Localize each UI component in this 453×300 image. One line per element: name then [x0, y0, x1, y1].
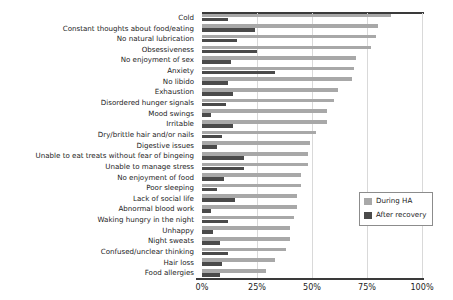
- category-label: No enjoyment of sex: [121, 56, 194, 64]
- bar-row: [202, 109, 422, 120]
- category-label: Dry/brittle hair and/or nails: [98, 131, 194, 139]
- category-label: No natural lubrication: [117, 35, 194, 43]
- bar-during-ha: [202, 141, 310, 145]
- legend-label-during-ha: During HA: [376, 197, 412, 205]
- bar-during-ha: [202, 14, 391, 18]
- bar-after-recovery: [202, 156, 244, 160]
- plot-area: [202, 13, 422, 279]
- bar-after-recovery: [202, 113, 211, 117]
- category-label: Unhappy: [162, 227, 194, 235]
- xtick-label: 50%: [303, 282, 321, 292]
- bar-after-recovery: [202, 71, 275, 75]
- legend-swatch-during-ha: [364, 198, 372, 205]
- category-label: Hair loss: [163, 259, 194, 267]
- bar-row: [202, 66, 422, 77]
- xtick-label: 25%: [248, 282, 266, 292]
- category-label: Cold: [178, 14, 194, 22]
- chart-legend: During HA After recovery: [359, 192, 433, 226]
- category-label: Food allergies: [145, 269, 194, 277]
- bar-after-recovery: [202, 220, 228, 224]
- category-label: Waking hungry in the night: [98, 216, 194, 224]
- bar-after-recovery: [202, 28, 255, 32]
- bar-after-recovery: [202, 241, 220, 245]
- xtick-label: 0%: [196, 282, 209, 292]
- bar-row: [202, 151, 422, 162]
- bar-during-ha: [202, 226, 290, 230]
- bar-row: [202, 162, 422, 173]
- bar-row: [202, 45, 422, 56]
- category-label: Digestive issues: [137, 142, 194, 150]
- bar-row: [202, 34, 422, 45]
- bar-row: [202, 236, 422, 247]
- category-label: Confused/unclear thinking: [101, 248, 194, 256]
- category-label: Disordered hunger signals: [101, 99, 194, 107]
- xtick-label: 100%: [410, 282, 433, 292]
- bar-after-recovery: [202, 81, 228, 85]
- bar-row: [202, 77, 422, 88]
- bar-row: [202, 226, 422, 237]
- bar-row: [202, 13, 422, 24]
- category-label: Constant thoughts about food/eating: [63, 25, 194, 33]
- bar-after-recovery: [202, 198, 235, 202]
- category-label: No enjoyment of food: [117, 174, 194, 182]
- bar-chart: ColdConstant thoughts about food/eatingN…: [0, 0, 453, 300]
- bar-during-ha: [202, 109, 327, 113]
- bar-row: [202, 258, 422, 269]
- legend-label-after-recovery: After recovery: [376, 211, 426, 219]
- legend-swatch-after-recovery: [364, 212, 372, 219]
- value-axis-line: [196, 278, 424, 280]
- xtick-label: 75%: [358, 282, 376, 292]
- category-label: Poor sleeping: [146, 184, 194, 192]
- bar-after-recovery: [202, 135, 222, 139]
- bar-after-recovery: [202, 39, 237, 43]
- bar-after-recovery: [202, 230, 213, 234]
- category-label: Night sweats: [148, 237, 194, 245]
- bar-row: [202, 119, 422, 130]
- bar-after-recovery: [202, 188, 217, 192]
- bar-during-ha: [202, 205, 297, 209]
- category-label: Exhaustion: [155, 88, 194, 96]
- bar-row: [202, 56, 422, 67]
- bar-row: [202, 130, 422, 141]
- bar-row: [202, 98, 422, 109]
- category-label: Unable to eat treats without fear of bin…: [36, 152, 194, 160]
- category-label: Mood swings: [148, 110, 194, 118]
- category-label: Lack of social life: [133, 195, 194, 203]
- category-axis-labels: ColdConstant thoughts about food/eatingN…: [0, 13, 198, 279]
- bar-after-recovery: [202, 262, 222, 266]
- bar-row: [202, 141, 422, 152]
- bar-row: [202, 24, 422, 35]
- bar-after-recovery: [202, 124, 233, 128]
- bar-row: [202, 247, 422, 258]
- bar-after-recovery: [202, 50, 257, 54]
- bar-row: [202, 87, 422, 98]
- bar-row: [202, 173, 422, 184]
- bar-after-recovery: [202, 177, 224, 181]
- legend-item-during-ha: During HA: [364, 197, 412, 205]
- bar-after-recovery: [202, 92, 233, 96]
- category-label: Anxiety: [167, 67, 194, 75]
- category-label: Unable to manage stress: [105, 163, 194, 171]
- bar-after-recovery: [202, 167, 244, 171]
- bar-after-recovery: [202, 18, 228, 22]
- legend-item-after-recovery: After recovery: [364, 211, 426, 219]
- category-label: No libido: [163, 78, 194, 86]
- category-label: Obsessiveness: [142, 46, 194, 54]
- bar-after-recovery: [202, 103, 226, 107]
- category-label: Irritable: [166, 120, 194, 128]
- bar-after-recovery: [202, 209, 211, 213]
- bar-after-recovery: [202, 273, 220, 277]
- gridline-100pct: [422, 13, 423, 279]
- bar-after-recovery: [202, 145, 217, 149]
- bar-after-recovery: [202, 252, 228, 256]
- category-label: Abnormal blood work: [118, 205, 194, 213]
- bar-after-recovery: [202, 60, 231, 64]
